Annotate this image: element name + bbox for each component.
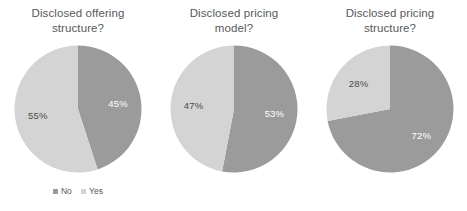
chart-title-offering-structure: Disclosed offering structure? bbox=[0, 6, 156, 36]
slice-label-yes-pricing-model: 47% bbox=[184, 100, 204, 111]
legend-entry-no[interactable]: No bbox=[53, 186, 72, 196]
slice-label-no-pricing-structure: 72% bbox=[412, 129, 432, 140]
slice-label-yes-pricing-structure: 28% bbox=[349, 78, 369, 89]
legend-swatch-yes-icon bbox=[81, 189, 86, 194]
legend-swatch-no-icon bbox=[53, 189, 58, 194]
pie-chart-panel-offering-structure: Disclosed offering structure? 45% 55% No… bbox=[0, 0, 156, 211]
chart-title-pricing-model: Disclosed pricing model? bbox=[156, 6, 312, 36]
legend-label-no: No bbox=[61, 186, 72, 196]
slice-label-no-pricing-model: 53% bbox=[265, 107, 285, 118]
slice-label-no-offering-structure: 45% bbox=[108, 97, 128, 108]
pie-chart-figure: Disclosed offering structure? 45% 55% No… bbox=[0, 0, 467, 211]
pie-svg-pricing-structure bbox=[326, 41, 454, 177]
pie-pricing-model: 53% 47% bbox=[170, 41, 298, 177]
pie-pricing-structure: 72% 28% bbox=[326, 41, 454, 177]
slice-label-yes-offering-structure: 55% bbox=[28, 110, 48, 121]
pie-chart-panel-pricing-structure: Disclosed pricing structure? 72% 28% bbox=[312, 0, 467, 211]
pie-chart-panel-pricing-model: Disclosed pricing model? 53% 47% bbox=[156, 0, 312, 211]
chart-legend: No Yes bbox=[0, 186, 156, 196]
chart-title-pricing-structure: Disclosed pricing structure? bbox=[312, 6, 467, 36]
legend-entry-yes[interactable]: Yes bbox=[81, 186, 103, 196]
pie-offering-structure: 45% 55% bbox=[14, 41, 142, 177]
legend-label-yes: Yes bbox=[89, 186, 103, 196]
